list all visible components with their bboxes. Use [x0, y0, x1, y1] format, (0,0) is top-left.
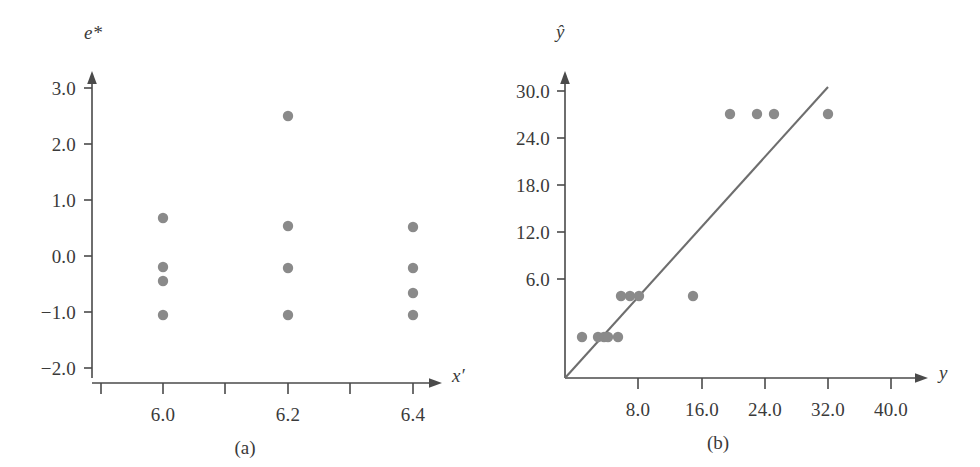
x-axis-title-text: y: [939, 362, 947, 383]
data-point: [408, 263, 418, 273]
x-tick-label-6.2: 6.2: [248, 404, 328, 426]
y-tick-label-0.0: 0.0: [10, 246, 76, 268]
panel-a-x-ticks: [101, 383, 413, 394]
data-point: [616, 291, 626, 301]
panel-a-residual-plot: 3.0 2.0 1.0 0.0 −1.0 −2.0 6.0 6.2 6.4 e*…: [0, 0, 490, 467]
y-axis-title-text: ŷ: [556, 21, 564, 42]
data-point: [769, 109, 779, 119]
panel-a-y-ticks: [84, 88, 92, 368]
y-tick-label-neg1.0: −1.0: [10, 302, 76, 324]
data-point: [408, 222, 418, 232]
data-point: [283, 263, 293, 273]
data-point: [283, 310, 293, 320]
panel-a-y-axis-title: e*: [84, 22, 102, 44]
data-point: [752, 109, 762, 119]
x-axis-arrowhead: [429, 378, 442, 388]
y-tick-label-6.0: 6.0: [490, 269, 550, 291]
y-axis-arrowhead: [560, 71, 570, 84]
panel-b-x-ticks: [638, 378, 891, 389]
data-point: [577, 332, 587, 342]
data-point: [158, 276, 168, 286]
data-point: [634, 291, 644, 301]
data-point: [688, 291, 698, 301]
data-point: [408, 288, 418, 298]
y-axis-arrowhead: [87, 71, 97, 84]
panel-b-x-axis-title: y: [939, 362, 947, 384]
y-tick-label-18.0: 18.0: [490, 175, 550, 197]
y-tick-label-24.0: 24.0: [490, 128, 550, 150]
data-point: [283, 221, 293, 231]
y-tick-label-3.0: 3.0: [10, 78, 76, 100]
y-axis-title-text: e*: [84, 22, 102, 43]
y-tick-label-2.0: 2.0: [10, 134, 76, 156]
x-axis-arrowhead: [915, 373, 928, 383]
panel-a-data-points: [158, 111, 418, 320]
panel-b-y-ticks: [557, 91, 565, 279]
data-point: [725, 109, 735, 119]
y-tick-label-neg2.0: −2.0: [10, 358, 76, 380]
figure-container: 3.0 2.0 1.0 0.0 −1.0 −2.0 6.0 6.2 6.4 e*…: [0, 0, 980, 467]
panel-b-y-axis-title: ŷ: [556, 21, 564, 43]
x-axis-title-text: x′: [452, 365, 465, 386]
data-point: [283, 111, 293, 121]
y-tick-label-30.0: 30.0: [490, 81, 550, 103]
x-tick-label-6.4: 6.4: [373, 404, 453, 426]
panel-b-canvas: [490, 0, 980, 467]
y-tick-label-1.0: 1.0: [10, 190, 76, 212]
x-tick-label-40.0: 40.0: [851, 399, 931, 421]
data-point: [408, 310, 418, 320]
panel-b-fitted-vs-observed-plot: 30.0 24.0 18.0 12.0 6.0 8.0 16.0 24.0 32…: [490, 0, 980, 467]
data-point: [158, 213, 168, 223]
panel-b-caption: (b): [668, 432, 768, 454]
x-tick-label-6.0: 6.0: [123, 404, 203, 426]
data-point: [158, 262, 168, 272]
data-point: [158, 310, 168, 320]
panel-a-caption: (a): [195, 437, 295, 459]
y-tick-label-12.0: 12.0: [490, 222, 550, 244]
panel-a-canvas: [0, 0, 490, 467]
panel-b-data-points: [577, 109, 833, 342]
data-point: [613, 332, 623, 342]
data-point: [823, 109, 833, 119]
panel-a-x-axis-title: x′: [452, 365, 465, 387]
data-point: [625, 291, 635, 301]
data-point: [603, 332, 613, 342]
